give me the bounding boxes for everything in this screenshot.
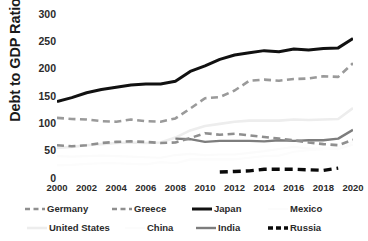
legend-item-japan[interactable]: Japan xyxy=(192,200,241,217)
legend-item-india[interactable]: India xyxy=(196,219,240,236)
x-axis-tick-labels: 2000200220042006200820102012201420162018… xyxy=(57,182,353,198)
chart-legend: GermanyGreeceJapanMexico United StatesCh… xyxy=(0,200,359,241)
legend-item-mexico[interactable]: Mexico xyxy=(268,200,322,217)
solid-white-line-icon xyxy=(125,223,145,233)
legend-label: Germany xyxy=(47,203,88,214)
legend-label: Russia xyxy=(290,222,321,233)
legend-label: Japan xyxy=(214,203,241,214)
legend-item-russia[interactable]: Russia xyxy=(268,219,321,236)
legend-label: China xyxy=(147,222,173,233)
y-tick-200: 200 xyxy=(22,63,56,74)
solid-white-line-icon xyxy=(268,204,288,214)
solid-lightgray-line-icon xyxy=(27,223,47,233)
y-tick-50: 50 xyxy=(22,145,56,156)
legend-item-china[interactable]: China xyxy=(125,219,173,236)
solid-black-line-icon xyxy=(192,204,212,214)
series-line-japan xyxy=(57,39,353,102)
series-lines xyxy=(57,14,353,178)
dashed-gray-line-icon xyxy=(112,204,132,214)
dashed-gray-line-icon xyxy=(25,204,45,214)
legend-label: Greece xyxy=(134,203,166,214)
y-tick-150: 150 xyxy=(22,91,56,102)
y-axis-tick-labels: 300250200150100500 xyxy=(22,0,56,190)
legend-row-2: United StatesChinaIndiaRussia xyxy=(0,219,359,236)
y-tick-250: 250 xyxy=(22,36,56,47)
legend-item-germany[interactable]: Germany xyxy=(25,200,88,217)
x-tick-2020: 2020 xyxy=(333,182,368,193)
y-tick-300: 300 xyxy=(22,9,56,20)
series-line-russia xyxy=(220,168,338,172)
series-line-greece xyxy=(57,63,353,121)
legend-label: Mexico xyxy=(290,203,322,214)
legend-item-greece[interactable]: Greece xyxy=(112,200,166,217)
legend-item-united-states[interactable]: United States xyxy=(27,219,110,236)
legend-row-1: GermanyGreeceJapanMexico xyxy=(0,200,359,217)
y-tick-100: 100 xyxy=(22,118,56,129)
solid-gray-line-icon xyxy=(196,223,216,233)
dashed-black-thick-line-icon xyxy=(268,223,288,233)
series-line-china xyxy=(57,142,353,166)
legend-label: India xyxy=(218,222,240,233)
legend-label: United States xyxy=(49,222,110,233)
y-axis-title: Debt to GDP Ratio xyxy=(7,0,23,145)
plot-area xyxy=(57,14,353,178)
